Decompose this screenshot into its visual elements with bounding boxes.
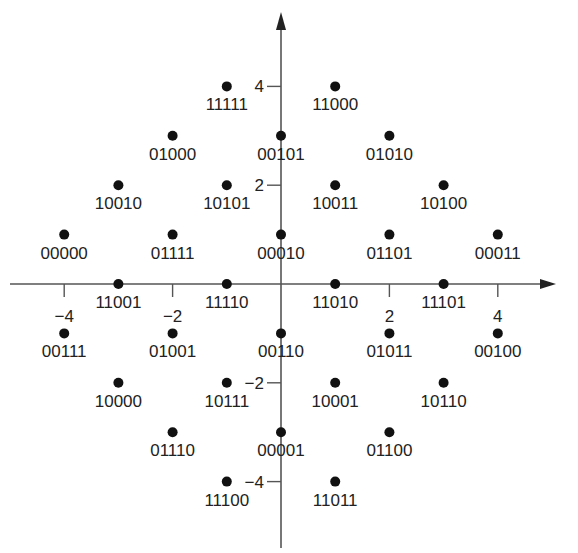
point-label: 11001 [95, 293, 141, 312]
constellation-point: 10110 [421, 378, 467, 411]
constellation-point: 00011 [475, 230, 521, 263]
point-dot [222, 378, 232, 388]
point-label: 00101 [257, 145, 304, 164]
point-dot [168, 131, 178, 141]
point-label: 10001 [312, 392, 359, 411]
point-label: 10110 [421, 392, 467, 411]
point-label: 00100 [474, 342, 521, 361]
point-dot [276, 427, 286, 437]
point-label: 10011 [312, 194, 358, 213]
constellation-point: 11000 [312, 81, 358, 114]
point-dot [384, 427, 394, 437]
point-dot [330, 180, 340, 190]
constellation-point: 10010 [95, 180, 142, 213]
point-dot [330, 378, 340, 388]
constellation-point: 01101 [366, 230, 412, 263]
constellation-point: 00010 [257, 230, 304, 263]
constellation-point: 00111 [42, 328, 87, 361]
point-dot [439, 378, 449, 388]
constellation-point: 10100 [420, 180, 467, 213]
point-label: 10111 [204, 392, 249, 411]
constellation-point: 01000 [149, 131, 196, 164]
constellation-point: 01100 [366, 427, 412, 460]
point-dot [384, 328, 394, 338]
point-dot [276, 131, 286, 141]
constellation-point: 10001 [312, 378, 359, 411]
point-label: 00000 [41, 244, 88, 263]
y-tick-label: 4 [255, 77, 264, 96]
constellation-point: 01111 [151, 230, 195, 263]
constellation-point: 01110 [150, 427, 195, 460]
point-dot [384, 131, 394, 141]
point-label: 10010 [95, 194, 142, 213]
constellation-point: 10000 [95, 378, 142, 411]
point-dot [113, 378, 123, 388]
x-tick-label: 4 [493, 307, 502, 326]
constellation-point: 00110 [258, 328, 304, 361]
y-tick-label: −4 [245, 473, 264, 492]
point-dot [222, 279, 232, 289]
point-label: 00011 [475, 244, 521, 263]
point-dot [330, 279, 340, 289]
point-label: 01001 [149, 342, 196, 361]
point-label: 11101 [421, 293, 466, 312]
point-dot [168, 427, 178, 437]
point-dot [222, 180, 232, 190]
constellation-point: 01011 [366, 328, 412, 361]
point-dot [439, 180, 449, 190]
point-dot [276, 328, 286, 338]
point-dot [59, 328, 69, 338]
point-dot [113, 180, 123, 190]
constellation-point: 00000 [41, 230, 88, 263]
point-label: 01101 [366, 244, 412, 263]
constellation-point: 11100 [204, 477, 249, 510]
x-axis [10, 279, 556, 289]
x-tick-label: −2 [163, 307, 182, 326]
point-label: 10101 [203, 194, 250, 213]
point-dot [276, 230, 286, 240]
y-tick-label: 2 [255, 176, 264, 195]
constellation-point: 10011 [312, 180, 358, 213]
point-label: 01110 [150, 441, 195, 460]
y-axis [276, 12, 286, 548]
constellation-point: 01010 [366, 131, 413, 164]
point-dot [384, 230, 394, 240]
point-dot [493, 328, 503, 338]
constellation-diagram: −4−22442−2−4 111111100001000001010101010… [0, 0, 578, 553]
x-tick-label: −4 [55, 307, 74, 326]
point-label: 01010 [366, 145, 413, 164]
point-label: 11000 [312, 95, 358, 114]
point-label: 10000 [95, 392, 142, 411]
point-label: 11100 [204, 491, 249, 510]
constellation-point: 00100 [474, 328, 521, 361]
x-tick-label: 2 [385, 307, 394, 326]
point-label: 00111 [42, 342, 87, 361]
point-dot [222, 81, 232, 91]
constellation-point: 11011 [313, 477, 358, 510]
point-label: 11011 [313, 491, 358, 510]
y-axis-arrow-icon [276, 12, 286, 30]
point-dot [113, 279, 123, 289]
point-dot [59, 230, 69, 240]
x-axis-arrow-icon [540, 279, 556, 289]
point-dot [439, 279, 449, 289]
y-tick-label: −2 [245, 374, 264, 393]
constellation-point: 11111 [206, 81, 248, 114]
point-label: 11111 [206, 95, 248, 114]
constellation-point: 01001 [149, 328, 196, 361]
point-label: 11010 [312, 293, 358, 312]
point-dot [222, 477, 232, 487]
constellation-point: 00001 [257, 427, 304, 460]
point-dot [493, 230, 503, 240]
constellation-point: 00101 [257, 131, 304, 164]
point-label: 01000 [149, 145, 196, 164]
point-label: 01011 [366, 342, 412, 361]
point-dot [330, 81, 340, 91]
constellation-point: 10111 [204, 378, 249, 411]
point-label: 11110 [205, 293, 249, 312]
constellation-point: 10101 [203, 180, 250, 213]
point-label: 00110 [258, 342, 304, 361]
point-label: 00001 [257, 441, 304, 460]
point-dot [168, 230, 178, 240]
point-label: 10100 [420, 194, 467, 213]
